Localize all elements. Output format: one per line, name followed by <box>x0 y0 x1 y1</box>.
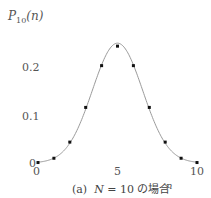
data-point <box>132 64 135 67</box>
data-point <box>100 64 103 67</box>
data-point <box>68 141 71 144</box>
figure-caption: (a) N = 10 の場合 <box>72 180 171 196</box>
x-tick-10: 10 <box>190 165 204 178</box>
data-point <box>196 161 199 164</box>
data-point <box>148 106 151 109</box>
x-tick-5: 5 <box>114 165 121 178</box>
data-point <box>180 157 183 160</box>
data-point <box>37 161 40 164</box>
data-point <box>116 45 119 48</box>
y-tick-0.2: 0.2 <box>22 61 40 74</box>
data-point <box>52 157 55 160</box>
fit-curve <box>38 43 197 162</box>
x-tick-0: 0 <box>33 165 40 178</box>
y-axis-label: P10(n) <box>8 9 43 25</box>
x-axis-label: n <box>166 180 172 191</box>
data-point <box>84 106 87 109</box>
data-points <box>37 45 199 164</box>
y-tick-0.1: 0.1 <box>22 110 40 123</box>
data-point <box>164 141 167 144</box>
